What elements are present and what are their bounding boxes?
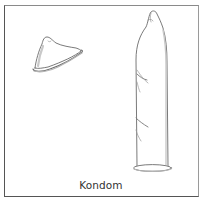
figure-caption: Kondom <box>0 179 202 191</box>
condom-illustration <box>0 0 202 202</box>
tall-condom-icon <box>134 11 172 171</box>
small-condom-icon <box>33 37 82 72</box>
